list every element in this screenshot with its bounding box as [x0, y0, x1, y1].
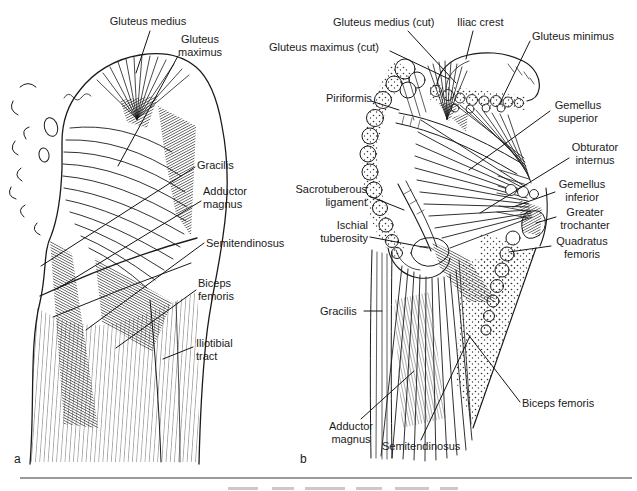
label-b-gluteus-medius-cut: Gluteus medius (cut) [333, 16, 434, 29]
label-b-gluteus-maximus-cut: Gluteus maximus (cut) [269, 41, 379, 54]
label-b-adductor-magnus: Adductor magnus [329, 420, 373, 446]
clipped-caption-remnant [395, 487, 429, 490]
label-a-gluteus-medius: Gluteus medius [110, 15, 186, 28]
label-a-gracilis: Gracilis [197, 159, 234, 172]
label-b-obturator-internus: Obturator internus [572, 141, 618, 167]
label-b-iliac-crest: Iliac crest [457, 16, 503, 29]
clipped-caption-remnant [305, 487, 345, 490]
panel-b-letter: b [300, 452, 307, 466]
clipped-caption-remnant [228, 487, 258, 490]
label-a-semitendinosus: Semitendinosus [206, 237, 284, 250]
label-a-iliotibial-tract: Iliotibial tract [196, 337, 233, 363]
label-b-ischial-tuberosity: Ischial tuberosity [320, 219, 368, 245]
panel-a-drawing [9, 54, 227, 464]
clipped-caption-remnant [356, 487, 382, 490]
label-a-biceps-femoris: Biceps femoris [198, 277, 234, 303]
label-b-gracilis: Gracilis [320, 305, 357, 318]
label-b-gemellus-superior: Gemellus superior [555, 99, 601, 125]
label-b-biceps-femoris: Biceps femoris [522, 397, 594, 410]
panel-a-letter: a [14, 452, 21, 466]
panel-b-drawing [360, 53, 547, 461]
clipped-caption-remnant [440, 487, 458, 490]
anatomy-diagram: Gluteus medius Gluteus maximus Gracilis … [0, 0, 637, 491]
clipped-caption-remnant [272, 487, 294, 490]
figure-illustration [0, 0, 637, 491]
label-b-piriformis: Piriformis [326, 92, 372, 105]
label-a-gluteus-maximus: Gluteus maximus [178, 33, 222, 59]
label-b-greater-trochanter: Greater trochanter [560, 206, 610, 232]
label-b-sacrotuberous-ligament: Sacrotuberous ligament [295, 183, 367, 209]
label-b-quadratus-femoris: Quadratus femoris [556, 235, 607, 261]
label-b-gemellus-inferior: Gemellus inferior [559, 178, 605, 204]
label-a-adductor-magnus: Adductor magnus [203, 185, 247, 211]
label-b-semitendinosus: Semitendinosus [382, 440, 460, 453]
label-b-gluteus-minimus: Gluteus minimus [532, 30, 614, 43]
bottom-rule [20, 477, 632, 479]
